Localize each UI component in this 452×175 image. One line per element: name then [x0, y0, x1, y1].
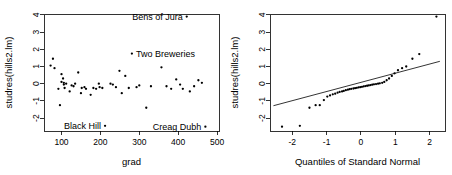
data-point: [411, 58, 413, 60]
data-point: [85, 88, 87, 90]
data-point: [332, 93, 334, 95]
data-point: [308, 107, 310, 109]
data-point: [435, 15, 437, 17]
x-tick-label: -1: [323, 137, 331, 147]
y-tick-label: 0: [31, 81, 41, 86]
data-point: [92, 87, 94, 89]
y-tick-label: 2: [257, 47, 267, 52]
data-point: [53, 67, 55, 69]
data-point: [72, 85, 74, 87]
data-point: [101, 87, 103, 89]
x-axis-group: -2-1012: [289, 131, 433, 147]
x-axis-title: grad: [122, 156, 141, 167]
axis-titles-group: gradstudres(hills2.lm): [3, 37, 141, 167]
data-point: [104, 125, 106, 127]
data-point: [393, 72, 395, 74]
data-point: [115, 86, 117, 88]
data-point: [69, 90, 71, 92]
plot-border: [270, 14, 445, 131]
data-point: [299, 125, 301, 127]
data-point: [314, 104, 316, 106]
plot-border: [44, 14, 219, 131]
y-tick-label: 0: [257, 81, 267, 86]
annotations-group: Bens of JuraTwo BreweriesBlack HillCreag…: [64, 12, 201, 132]
data-point: [80, 92, 82, 94]
data-point: [49, 64, 51, 66]
data-point: [131, 52, 133, 54]
data-point: [326, 95, 328, 97]
data-point: [401, 67, 403, 69]
y-tick-label: 4: [31, 12, 41, 17]
y-tick-label: 3: [31, 29, 41, 34]
data-point: [379, 82, 381, 84]
x-axis-group: 100200300400500: [54, 131, 224, 147]
data-point: [405, 65, 407, 67]
data-points-group: [281, 15, 438, 127]
data-point: [165, 85, 167, 87]
y-axis-group: -2-101234: [257, 12, 270, 122]
data-point: [63, 87, 65, 89]
data-point: [128, 87, 130, 89]
data-point: [179, 83, 181, 85]
y-tick-label: 1: [31, 64, 41, 69]
scatter-plot-panel: 100200300400500 -2-101234 Bens of JuraTw…: [0, 0, 226, 175]
point-annotation-label: Bens of Jura: [132, 12, 183, 22]
data-point: [391, 75, 393, 77]
data-point: [281, 126, 283, 128]
data-point: [138, 84, 140, 86]
data-point: [339, 91, 341, 93]
data-point: [182, 88, 184, 90]
figure-container: 100200300400500 -2-101234 Bens of JuraTw…: [0, 0, 452, 175]
x-tick-label: 1: [393, 137, 398, 147]
y-tick-label: 1: [257, 64, 267, 69]
data-point: [52, 58, 54, 60]
x-tick-label: 400: [171, 137, 185, 147]
x-tick-label: 300: [132, 137, 146, 147]
data-point: [57, 88, 59, 90]
data-point: [98, 83, 100, 85]
data-point: [397, 69, 399, 71]
data-point: [60, 73, 62, 75]
data-point: [193, 85, 195, 87]
x-tick-label: 500: [210, 137, 224, 147]
qq-reference-line: [273, 61, 439, 105]
data-point: [350, 88, 352, 90]
data-point: [345, 89, 347, 91]
data-point: [95, 88, 97, 90]
data-point: [388, 77, 390, 79]
data-point: [383, 81, 385, 83]
data-point: [189, 90, 191, 92]
y-axis-group: -2-101234: [31, 12, 44, 122]
data-point: [65, 83, 67, 85]
data-point: [175, 78, 177, 80]
x-tick-label: 2: [427, 137, 432, 147]
qq-plot-panel: -2-1012 -2-101234 Quantiles of Standard …: [226, 0, 452, 175]
data-point: [145, 107, 147, 109]
data-point: [375, 83, 377, 85]
data-point: [59, 104, 61, 106]
data-point: [63, 83, 65, 85]
data-point: [329, 94, 331, 96]
x-axis-title: Quantiles of Standard Normal: [295, 156, 420, 167]
y-tick-label: 3: [257, 29, 267, 34]
x-tick-label: 0: [359, 137, 364, 147]
point-annotation-label: Two Breweries: [136, 49, 196, 59]
data-point: [83, 86, 85, 88]
y-tick-label: -1: [257, 97, 267, 105]
y-axis-title: studres(hills2.lm): [229, 37, 240, 109]
data-point: [135, 86, 137, 88]
data-point: [386, 79, 388, 81]
qq-plot-svg: -2-1012 -2-101234 Quantiles of Standard …: [226, 0, 452, 175]
x-tick-label: 200: [93, 137, 107, 147]
data-point: [373, 83, 375, 85]
data-point: [204, 126, 206, 128]
point-annotation-label: Creag Dubh: [153, 122, 202, 132]
data-point: [201, 82, 203, 84]
data-point: [118, 70, 120, 72]
point-annotation-label: Black Hill: [64, 121, 101, 131]
y-tick-label: -1: [31, 97, 41, 105]
data-point: [336, 91, 338, 93]
data-point: [150, 85, 152, 87]
scatter-plot-svg: 100200300400500 -2-101234 Bens of JuraTw…: [0, 0, 226, 175]
data-point: [334, 93, 336, 95]
